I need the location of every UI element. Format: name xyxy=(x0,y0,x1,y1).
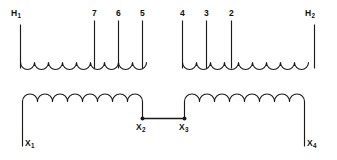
node-dot-x2 xyxy=(141,117,145,121)
label-tap-5: 5 xyxy=(140,9,145,18)
coil-primary-right xyxy=(183,63,309,70)
label-x1-sub: 1 xyxy=(31,142,35,149)
label-h2: H2 xyxy=(305,9,315,18)
label-tap-5-text: 5 xyxy=(140,8,145,18)
label-h1-sub: 1 xyxy=(18,12,22,19)
label-x1: X1 xyxy=(25,139,34,148)
label-x4-sub: 4 xyxy=(313,142,317,149)
coil-secondary-left xyxy=(23,94,143,119)
label-tap-3-text: 3 xyxy=(204,8,209,18)
label-h2-text: H xyxy=(305,8,311,18)
transformer-winding-diagram: H1 7 6 5 4 3 2 H2 X1 X2 X3 X4 xyxy=(0,0,337,160)
label-tap-6-text: 6 xyxy=(116,8,121,18)
label-x3-text: X xyxy=(179,122,185,132)
label-tap-4: 4 xyxy=(180,9,185,18)
label-h2-sub: 2 xyxy=(312,12,316,19)
label-tap-6: 6 xyxy=(116,9,121,18)
label-tap-4-text: 4 xyxy=(180,8,185,18)
label-tap-2: 2 xyxy=(229,9,234,18)
label-x3-sub: 3 xyxy=(185,126,189,133)
label-tap-7-text: 7 xyxy=(92,8,97,18)
label-x1-text: X xyxy=(25,138,31,148)
label-tap-7: 7 xyxy=(92,9,97,18)
label-tap-3: 3 xyxy=(204,9,209,18)
label-h1: H1 xyxy=(11,9,21,18)
label-x3: X3 xyxy=(179,123,188,132)
label-x4-text: X xyxy=(307,138,313,148)
label-x2: X2 xyxy=(136,123,145,132)
coil-secondary-right xyxy=(185,94,305,119)
coil-primary-left xyxy=(21,63,147,70)
label-tap-2-text: 2 xyxy=(229,8,234,18)
label-h1-text: H xyxy=(11,8,17,18)
label-x4: X4 xyxy=(307,139,316,148)
label-x2-text: X xyxy=(136,122,142,132)
label-x2-sub: 2 xyxy=(142,126,146,133)
node-dot-x3 xyxy=(183,117,187,121)
winding-schematic-svg xyxy=(0,0,337,160)
